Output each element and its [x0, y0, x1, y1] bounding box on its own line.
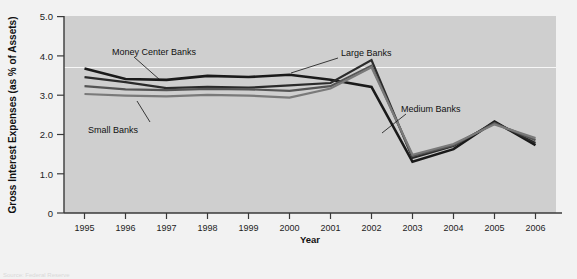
- annotation-money-center-banks: Money Center Banks: [112, 47, 197, 57]
- plot-area-background: [64, 16, 556, 213]
- y-tick-label: 4.0: [40, 51, 53, 62]
- y-tick-label: 0: [48, 208, 53, 219]
- annotation-large-banks: Large Banks: [341, 48, 392, 58]
- y-tick-label: 1.0: [40, 169, 53, 180]
- x-tick-label: 2001: [320, 223, 340, 233]
- x-tick-label: 2002: [361, 223, 381, 233]
- annotation-small-banks: Small Banks: [88, 125, 139, 135]
- source-note: Source: Federal Reserve: [3, 272, 70, 279]
- x-axis-title: Year: [300, 234, 320, 245]
- y-tick-label: 2.0: [40, 129, 53, 140]
- x-tick-label: 2005: [484, 223, 504, 233]
- y-tick-label: 5.0: [40, 11, 53, 22]
- x-tick-label: 2000: [279, 223, 299, 233]
- x-tick-label: 2004: [443, 223, 463, 233]
- chart-figure: 5.0 4.0 3.0 2.0 1.0 0 199519961997199819…: [0, 0, 577, 279]
- x-tick-label: 1999: [238, 223, 258, 233]
- y-tick-label: 3.0: [40, 90, 53, 101]
- x-tick-label: 1995: [74, 223, 94, 233]
- x-tick-label: 2006: [525, 223, 545, 233]
- x-tick-label: 2003: [402, 223, 422, 233]
- line-chart: 5.0 4.0 3.0 2.0 1.0 0 199519961997199819…: [0, 0, 577, 279]
- y-axis-title: Gross Interest Expenses (as % of Assets): [7, 17, 18, 214]
- x-tick-label: 1997: [156, 223, 176, 233]
- x-tick-label: 1996: [115, 223, 135, 233]
- x-tick-label: 1998: [197, 223, 217, 233]
- annotation-medium-banks: Medium Banks: [401, 104, 461, 114]
